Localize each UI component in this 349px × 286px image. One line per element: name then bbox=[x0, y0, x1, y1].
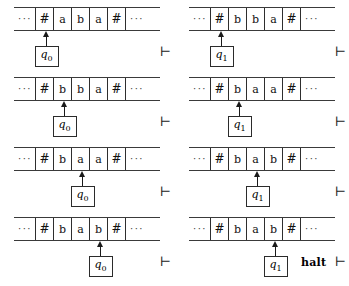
tape-cells: ···#bab#··· bbox=[189, 148, 323, 170]
tape-cell: # bbox=[210, 218, 229, 240]
state-box: q1 bbox=[264, 256, 288, 277]
tape-ellipsis-left: ··· bbox=[189, 148, 211, 170]
tape-ellipsis-right: ··· bbox=[126, 218, 148, 240]
state-box: q1 bbox=[246, 186, 270, 207]
tape-ellipsis-right: ··· bbox=[301, 8, 323, 30]
turnstile-symbol: ⊢ bbox=[335, 185, 346, 198]
tape-cell: a bbox=[246, 218, 265, 240]
tape-ellipsis-left: ··· bbox=[14, 148, 36, 170]
turing-machine-trace: ···#aba#···q0⊢···#bba#···q1⊢···#bba#···q… bbox=[0, 0, 349, 286]
turnstile-symbol: ⊢ bbox=[160, 185, 171, 198]
turnstile-symbol: ⊢ bbox=[160, 45, 171, 58]
tape-cells: ···#bba#··· bbox=[189, 8, 323, 30]
tape-head-pointer bbox=[82, 171, 83, 184]
tape-cell: # bbox=[35, 8, 54, 30]
tape-rail-bottom bbox=[189, 100, 335, 101]
turnstile-symbol: ⊢ bbox=[335, 115, 346, 128]
tape-ellipsis-left: ··· bbox=[189, 78, 211, 100]
tape-cells: ···#bba#··· bbox=[14, 78, 148, 100]
tape-ellipsis-right: ··· bbox=[301, 148, 323, 170]
tape-cells: ···#bab#··· bbox=[14, 218, 148, 240]
tape-ellipsis-right: ··· bbox=[126, 78, 148, 100]
tape: ···#bab#··· bbox=[189, 147, 335, 171]
tape-head-pointer bbox=[100, 241, 101, 254]
tape-cells: ···#baa#··· bbox=[14, 148, 148, 170]
tape-cells: ···#bab#··· bbox=[189, 218, 323, 240]
head-pointer-arrowhead bbox=[218, 31, 224, 37]
tape-rail-bottom bbox=[14, 240, 160, 241]
tape-cell: # bbox=[282, 8, 301, 30]
tape-cell: a bbox=[246, 148, 265, 170]
tape: ···#baa#··· bbox=[189, 77, 335, 101]
tape-cell: b bbox=[53, 148, 72, 170]
tape-cell: b bbox=[53, 218, 72, 240]
head-pointer-arrowhead bbox=[97, 241, 103, 247]
tape-rail-bottom bbox=[189, 240, 335, 241]
tape: ···#aba#··· bbox=[14, 7, 160, 31]
halt-label: halt bbox=[301, 256, 326, 269]
state-subscript: 1 bbox=[223, 54, 228, 63]
turnstile-symbol: ⊢ bbox=[160, 115, 171, 128]
tape-configuration: ···#baa#···q0⊢ bbox=[0, 142, 174, 213]
tape-rail-bottom bbox=[14, 170, 160, 171]
state-box: q0 bbox=[71, 186, 95, 207]
tape-cell: a bbox=[89, 8, 108, 30]
tape-cells: ···#baa#··· bbox=[189, 78, 323, 100]
tape-cell: b bbox=[228, 8, 247, 30]
tape-ellipsis-left: ··· bbox=[14, 78, 36, 100]
tape-ellipsis-left: ··· bbox=[189, 8, 211, 30]
turnstile-symbol: ⊢ bbox=[335, 255, 346, 268]
tape-cell: # bbox=[282, 218, 301, 240]
tape-cell: b bbox=[71, 8, 90, 30]
tape: ···#bba#··· bbox=[14, 77, 160, 101]
state-symbol: q bbox=[252, 188, 259, 201]
tape-rail-bottom bbox=[14, 30, 160, 31]
tape-head-pointer bbox=[239, 101, 240, 114]
state-subscript: 1 bbox=[259, 194, 264, 203]
tape-cell: b bbox=[71, 78, 90, 100]
tape-cell: a bbox=[89, 148, 108, 170]
tape-cell: # bbox=[107, 78, 126, 100]
tape-cell: b bbox=[53, 78, 72, 100]
tape-rail-bottom bbox=[14, 100, 160, 101]
tape: ···#baa#··· bbox=[14, 147, 160, 171]
tape-cell: b bbox=[264, 218, 283, 240]
state-symbol: q bbox=[234, 118, 241, 131]
tape-rail-bottom bbox=[189, 30, 335, 31]
tape-ellipsis-left: ··· bbox=[14, 8, 36, 30]
state-subscript: 0 bbox=[102, 264, 107, 273]
state-symbol: q bbox=[41, 48, 48, 61]
tape-ellipsis-left: ··· bbox=[189, 218, 211, 240]
head-pointer-arrowhead bbox=[272, 241, 278, 247]
state-symbol: q bbox=[216, 48, 223, 61]
tape: ···#bab#··· bbox=[14, 217, 160, 241]
tape-cell: b bbox=[89, 218, 108, 240]
tape-cell: b bbox=[246, 8, 265, 30]
tape-cell: b bbox=[264, 148, 283, 170]
head-pointer-arrowhead bbox=[236, 101, 242, 107]
tape-cell: # bbox=[210, 8, 229, 30]
tape-ellipsis-right: ··· bbox=[126, 148, 148, 170]
head-pointer-arrowhead bbox=[61, 101, 67, 107]
state-subscript: 0 bbox=[84, 194, 89, 203]
tape-cell: # bbox=[35, 148, 54, 170]
tape-configuration: ···#bab#···q1⊢ bbox=[175, 142, 349, 213]
tape-configuration: ···#bab#···q1⊢ bbox=[175, 212, 349, 283]
tape-cell: # bbox=[35, 78, 54, 100]
tape-cell: # bbox=[107, 148, 126, 170]
tape-head-pointer bbox=[275, 241, 276, 254]
tape-ellipsis-right: ··· bbox=[301, 218, 323, 240]
tape-cell: # bbox=[210, 78, 229, 100]
tape-cell: # bbox=[210, 148, 229, 170]
tape-head-pointer bbox=[46, 31, 47, 44]
tape-cell: a bbox=[71, 218, 90, 240]
state-subscript: 1 bbox=[277, 264, 282, 273]
tape-ellipsis-right: ··· bbox=[126, 8, 148, 30]
head-pointer-arrowhead bbox=[43, 31, 49, 37]
state-subscript: 0 bbox=[66, 124, 71, 133]
tape-head-pointer bbox=[64, 101, 65, 114]
tape-cell: b bbox=[228, 78, 247, 100]
state-box: q1 bbox=[228, 116, 252, 137]
tape-cell: b bbox=[228, 218, 247, 240]
tape-cell: # bbox=[35, 218, 54, 240]
